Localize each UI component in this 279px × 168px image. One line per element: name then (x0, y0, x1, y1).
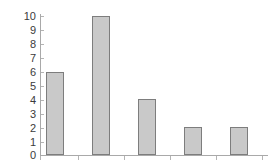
bar-4 (184, 127, 202, 155)
x-tick-mark (40, 156, 41, 160)
y-tick-2: 2 (0, 123, 36, 134)
y-axis (40, 14, 41, 156)
x-tick-mark (78, 156, 79, 160)
y-tick-label: 5 (6, 81, 36, 92)
y-tick-10: 10 (0, 11, 36, 22)
y-tick-label: 1 (6, 137, 36, 148)
y-tick-label: 9 (6, 25, 36, 36)
y-tick-0: 0 (0, 150, 36, 161)
y-tick-label: 4 (6, 95, 36, 106)
y-tick-8: 8 (0, 39, 36, 50)
y-tick-7: 7 (0, 53, 36, 64)
y-tick-6: 6 (0, 67, 36, 78)
y-tick-1: 1 (0, 137, 36, 148)
y-tick-label: 6 (6, 67, 36, 78)
y-tick-3: 3 (0, 109, 36, 120)
y-tick-label: 0 (6, 150, 36, 161)
bar-1 (46, 72, 64, 155)
y-tick-label: 2 (6, 123, 36, 134)
bar-chart: 10 9 8 7 6 5 4 3 2 1 0 (0, 0, 279, 168)
y-tick-9: 9 (0, 25, 36, 36)
bar-5 (230, 127, 248, 155)
y-tick-label: 10 (6, 11, 36, 22)
y-tick-label: 8 (6, 39, 36, 50)
x-axis (40, 155, 268, 156)
x-tick-mark (216, 156, 217, 160)
y-tick-5: 5 (0, 81, 36, 92)
y-tick-4: 4 (0, 95, 36, 106)
x-tick-mark (170, 156, 171, 160)
x-tick-mark (262, 156, 263, 160)
y-tick-label: 3 (6, 109, 36, 120)
x-tick-mark (124, 156, 125, 160)
bar-3 (138, 99, 156, 155)
bar-2 (92, 16, 110, 155)
y-tick-label: 7 (6, 53, 36, 64)
